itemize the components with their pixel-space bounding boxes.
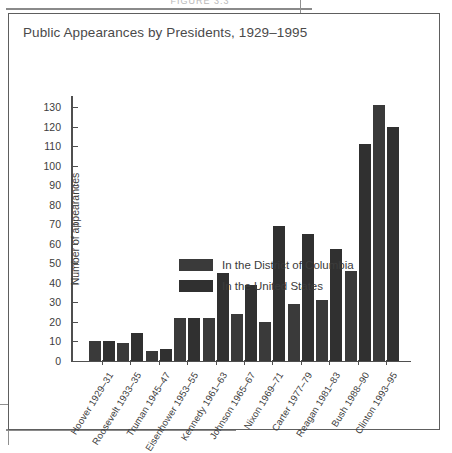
y-tick-label: 0 (55, 355, 61, 367)
bar (259, 322, 271, 361)
bar (316, 300, 328, 360)
y-tick-mark (72, 322, 78, 323)
x-tick-label: Eisenhower 1953–55 (143, 370, 201, 453)
y-tick-label: 30 (49, 296, 61, 308)
bar (359, 144, 371, 360)
x-tick-mark (244, 360, 245, 365)
bar (387, 127, 399, 361)
y-tick-label: 90 (49, 179, 61, 191)
legend-item: In the United States (179, 277, 354, 294)
y-tick-mark (72, 244, 78, 245)
x-tick-mark (130, 360, 131, 365)
x-tick-mark (358, 360, 359, 365)
bar (89, 341, 101, 360)
y-tick-label: 40 (49, 277, 61, 289)
x-tick-mark (216, 360, 217, 365)
legend-swatch (179, 259, 213, 271)
y-tick-label: 50 (49, 257, 61, 269)
y-tick-label: 130 (43, 101, 61, 113)
bar-group (174, 98, 200, 361)
x-tick-mark (187, 360, 188, 365)
legend-label: In the District of Columbia (222, 259, 354, 271)
bar (373, 105, 385, 360)
bar (146, 351, 158, 361)
bar-group (259, 98, 285, 361)
chart-legend: In the District of ColumbiaIn the United… (179, 256, 354, 298)
y-tick-mark (72, 205, 78, 206)
y-tick-label: 20 (49, 316, 61, 328)
bar (174, 318, 186, 361)
y-tick-mark (72, 302, 78, 303)
y-tick-mark (72, 146, 78, 147)
bar-group (373, 98, 399, 361)
x-tick-mark (301, 360, 302, 365)
x-tick-mark (386, 360, 387, 365)
bar-group (345, 98, 371, 361)
bar-group (146, 98, 172, 361)
bar-group (117, 98, 143, 361)
legend-label: In the United States (222, 280, 323, 292)
x-axis-line (71, 361, 411, 363)
y-tick-mark (72, 361, 78, 362)
bar (188, 318, 200, 361)
bar (131, 333, 143, 360)
figure-caption: FIGURE 3.3 (110, 0, 290, 6)
x-tick-mark (329, 360, 330, 365)
y-tick-mark (72, 127, 78, 128)
y-tick-label: 60 (49, 238, 61, 250)
y-tick-label: 70 (49, 218, 61, 230)
bar (160, 349, 172, 361)
x-tick-mark (159, 360, 160, 365)
figure-frame: Public Appearances by Presidents, 1929–1… (8, 13, 440, 430)
y-tick-mark (72, 185, 78, 186)
y-tick-label: 10 (49, 335, 61, 347)
page-top-rule (6, 8, 312, 10)
bar-group (288, 98, 314, 361)
bar-group (316, 98, 342, 361)
bar (103, 341, 115, 360)
bar-group (89, 98, 115, 361)
y-axis-title: Number of appearances (69, 173, 81, 286)
x-tick-mark (272, 360, 273, 365)
bar-group (231, 98, 257, 361)
bar (203, 318, 215, 361)
bar (117, 343, 129, 361)
y-tick-mark (72, 283, 78, 284)
y-tick-mark (72, 166, 78, 167)
legend-item: In the District of Columbia (179, 256, 354, 273)
y-tick-mark (72, 341, 78, 342)
y-tick-label: 120 (43, 121, 61, 133)
bar-group (203, 98, 229, 361)
bar (231, 314, 243, 361)
legend-swatch (179, 280, 213, 292)
y-tick-label: 110 (44, 140, 61, 152)
bar (288, 304, 300, 360)
y-tick-mark (72, 107, 78, 108)
chart-title: Public Appearances by Presidents, 1929–1… (23, 25, 307, 40)
plot-area: Number of appearances 010203040506070809… (71, 96, 411, 362)
y-tick-label: 80 (49, 199, 61, 211)
y-tick-label: 100 (43, 160, 61, 172)
y-tick-mark (72, 263, 78, 264)
y-tick-mark (72, 224, 78, 225)
x-tick-mark (102, 360, 103, 365)
